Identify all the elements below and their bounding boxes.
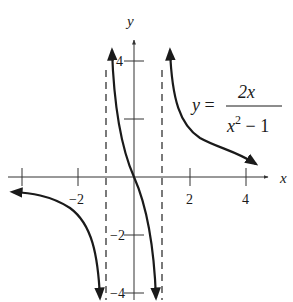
x-tick-label-2: 2 (186, 192, 193, 207)
y-tick-label-4: 4 (116, 54, 123, 69)
curve-left-branch (12, 192, 100, 298)
x-tick-label-4: 4 (242, 192, 249, 207)
function-graph: y x −2 2 4 4 −2 −4 y = 2x x2 − 1 (0, 0, 293, 302)
x-axis-label: x (279, 170, 287, 186)
x-tick-label-neg2: −2 (69, 192, 84, 207)
equation-numerator: 2x (238, 82, 255, 102)
equation-denominator: x2 − 1 (226, 113, 269, 136)
svg-text:y =: y = (190, 95, 215, 115)
y-tick-label-neg4: −4 (110, 286, 125, 301)
y-tick-label-neg2: −2 (110, 228, 125, 243)
y-axis-label: y (125, 13, 134, 29)
equation: y = 2x x2 − 1 (190, 82, 282, 136)
